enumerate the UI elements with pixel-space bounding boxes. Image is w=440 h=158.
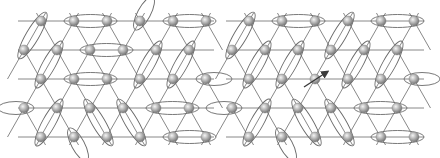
lattice-site-atom: [85, 103, 95, 113]
lattice-site-atom: [244, 132, 254, 142]
lattice-site-atom: [359, 45, 369, 55]
dimer-lattice-figure: [0, 0, 440, 158]
lattice-site-atom: [36, 16, 46, 26]
lattice-site-atom: [343, 74, 353, 84]
lattice-site-atom: [168, 16, 178, 26]
lattice-site-atom: [244, 16, 254, 26]
lattice-diagram: [0, 0, 440, 158]
lattice-site-atom: [184, 103, 194, 113]
lattice-site-atom: [52, 45, 62, 55]
lattice-site-atom: [326, 103, 336, 113]
lattice-site-atom: [310, 16, 320, 26]
lattice-site-atom: [376, 16, 386, 26]
lattice-site-atom: [277, 132, 287, 142]
lattice-site-atom: [277, 16, 287, 26]
lattice-site-atom: [118, 103, 128, 113]
right-panel: [206, 9, 440, 158]
lattice-site-atom: [260, 45, 270, 55]
lattice-site-atom: [168, 74, 178, 84]
lattice-site-atom: [102, 16, 112, 26]
lattice-site-atom: [343, 132, 353, 142]
lattice-site-atom: [260, 103, 270, 113]
lattice-site-atom: [201, 16, 211, 26]
lattice-site-atom: [135, 74, 145, 84]
lattice-site-atom: [69, 132, 79, 142]
lattice-site-atom: [69, 16, 79, 26]
lattice-site-atom: [277, 74, 287, 84]
lattice-site-atom: [244, 74, 254, 84]
lattice-site-atom: [392, 45, 402, 55]
lattice-site-atom: [201, 132, 211, 142]
lattice-site-atom: [85, 45, 95, 55]
lattice-site-atom: [52, 103, 62, 113]
lattice-site-atom: [135, 16, 145, 26]
left-panel: [0, 0, 232, 158]
lattice-site-atom: [293, 103, 303, 113]
lattice-site-atom: [151, 45, 161, 55]
lattice-site-atom: [69, 74, 79, 84]
valence-bond-dimer-edge: [64, 125, 93, 158]
lattice-site-atom: [326, 45, 336, 55]
valence-bond-dimer-edge: [272, 125, 301, 158]
lattice-site-atom: [135, 132, 145, 142]
lattice-site-atom: [151, 103, 161, 113]
lattice-site-atom: [36, 132, 46, 142]
lattice-site-atom: [102, 132, 112, 142]
lattice-site-atom: [201, 74, 211, 84]
lattice-site-atom: [409, 132, 419, 142]
lattice-site-atom: [19, 103, 29, 113]
lattice-site-atom: [310, 132, 320, 142]
lattice-site-atom: [36, 74, 46, 84]
lattice-site-atom: [102, 74, 112, 84]
lattice-site-atom: [293, 45, 303, 55]
lattice-site-atom: [392, 103, 402, 113]
lattice-site-atom: [376, 132, 386, 142]
lattice-site-atom: [343, 16, 353, 26]
lattice-site-atom: [227, 103, 237, 113]
lattice-site-atom: [359, 103, 369, 113]
lattice-site-atom: [168, 132, 178, 142]
lattice-site-atom: [118, 45, 128, 55]
lattice-site-atom: [409, 74, 419, 84]
lattice-site-atom: [409, 16, 419, 26]
lattice-site-atom: [184, 45, 194, 55]
lattice-site-atom: [19, 45, 29, 55]
lattice-site-atom: [227, 45, 237, 55]
lattice-site-atom: [376, 74, 386, 84]
